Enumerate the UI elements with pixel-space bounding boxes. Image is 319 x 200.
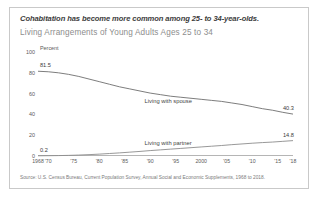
- series-inline-label: Living with spouse: [145, 98, 192, 104]
- y-axis-tick-label: 80: [29, 70, 35, 76]
- x-axis-tick-label: '95: [172, 158, 179, 164]
- chart-figure: Cohabitation has become more common amon…: [0, 0, 319, 200]
- data-value-label: 40.3: [283, 105, 294, 111]
- x-axis-tick-label: 1968: [32, 158, 44, 164]
- x-axis-tick-label: '15: [274, 158, 281, 164]
- data-value-label: 81.5: [40, 62, 51, 68]
- data-value-label: 0.2: [40, 147, 48, 153]
- y-axis-tick-label: 60: [29, 91, 35, 97]
- x-axis-tick-label: 2000: [195, 158, 207, 164]
- y-axis-tick-label: 100: [26, 49, 35, 55]
- chart-title: Cohabitation has become more common amon…: [20, 14, 259, 23]
- data-value-label: 14.8: [283, 132, 294, 138]
- x-axis-tick-label: '70: [45, 158, 52, 164]
- x-axis-tick-label: '80: [96, 158, 103, 164]
- line-series: [38, 71, 293, 114]
- x-axis-tick-label: '90: [147, 158, 154, 164]
- series-inline-label: Living with partner: [145, 140, 192, 146]
- x-axis-tick-label: '05: [223, 158, 230, 164]
- x-axis-tick-label: '85: [121, 158, 128, 164]
- plot-area: 020406080100 1968'70'75'80'85'90'952000'…: [38, 52, 293, 156]
- source-note: Source: U.S. Census Bureau, Current Popu…: [20, 175, 265, 180]
- chart-subtitle: Living Arrangements of Young Adults Ages…: [20, 28, 213, 37]
- x-axis-tick-label: '75: [70, 158, 77, 164]
- x-axis-tick-label: '10: [249, 158, 256, 164]
- y-axis-unit-label: Percent: [40, 45, 59, 51]
- x-axis-tick-label: '18: [290, 158, 297, 164]
- y-axis-tick-label: 40: [29, 111, 35, 117]
- y-axis-tick-label: 20: [29, 132, 35, 138]
